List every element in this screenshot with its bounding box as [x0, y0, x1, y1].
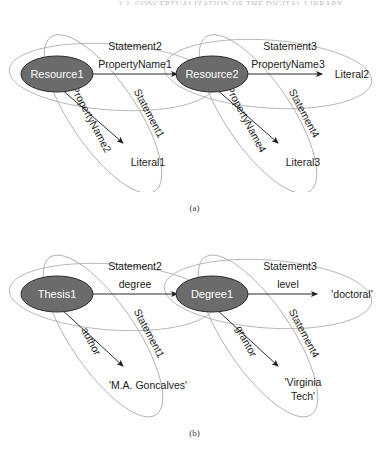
edge-label-e1: PropertyName1 [98, 58, 172, 70]
edge-label-e3: PropertyName3 [251, 58, 325, 70]
edge-label-e3: level [277, 278, 299, 290]
node-subject2-a[interactable]: Resource2 [176, 56, 248, 92]
statement-label-s1: Statement1 [132, 87, 168, 140]
figure-page: 2.2. CONCEPTUALIZATION OF THE DIGITAL LI… [0, 0, 389, 459]
node-object3-line2: Tech' [291, 390, 315, 402]
node-subject2-b[interactable]: Degree1 [176, 276, 248, 312]
node-subject1-a[interactable]: Resource1 [21, 56, 93, 92]
statement-label-s2: Statement2 [108, 260, 162, 272]
node-object3-b: 'Virginia Tech' [285, 376, 322, 402]
node-label: Thesis1 [38, 288, 77, 300]
statement-label-s1: Statement1 [132, 307, 168, 360]
statement-label-s3: Statement3 [263, 40, 317, 52]
statement-label-s2: Statement2 [108, 40, 162, 52]
figure-b-caption: (b) [0, 428, 389, 438]
edge-label-e2: PropertyName2 [69, 84, 114, 155]
figure-a-canvas: Statement2 Statement3 Statement1 Stateme… [0, 14, 389, 192]
statement-label-s4: Statement4 [287, 87, 323, 140]
edge-label-e4: PropertyName4 [224, 84, 269, 155]
figure-b: Statement2 Statement3 Statement1 Stateme… [0, 234, 389, 422]
node-object1-b: 'M.A. Goncalves' [109, 379, 187, 391]
statement-label-s3: Statement3 [263, 260, 317, 272]
figure-b-canvas: Statement2 Statement3 Statement1 Stateme… [0, 234, 389, 422]
node-label: Resource1 [30, 68, 83, 80]
edge-label-e4: grantor [233, 324, 259, 359]
statement-label-s4: Statement4 [287, 307, 323, 360]
running-head: 2.2. CONCEPTUALIZATION OF THE DIGITAL LI… [118, 0, 368, 5]
node-label: Degree1 [191, 288, 233, 300]
node-label: Resource2 [185, 68, 238, 80]
node-subject1-b[interactable]: Thesis1 [21, 276, 93, 312]
node-object3-a: Literal3 [286, 156, 321, 168]
edge-label-e1: degree [119, 278, 152, 290]
edge-label-e2: author [79, 325, 104, 357]
figure-a: Statement2 Statement3 Statement1 Stateme… [0, 14, 389, 192]
node-object3-line1: 'Virginia [285, 376, 322, 388]
statement-outlines-b [7, 239, 374, 422]
node-object2-b: 'doctoral' [331, 288, 372, 300]
node-object2-a: Literal2 [335, 68, 370, 80]
node-object1-a: Literal1 [131, 156, 166, 168]
figure-a-caption: (a) [0, 203, 389, 213]
